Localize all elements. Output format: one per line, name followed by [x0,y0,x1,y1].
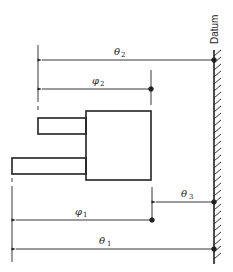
part-body [86,111,151,180]
label-theta3: θ3 [181,188,194,201]
datum-hatch-mark [214,64,221,70]
datum-hatch-mark [214,141,221,147]
label-theta2: θ2 [114,46,126,59]
datum-hatch-mark [214,134,221,140]
datum-hatch-mark [214,50,221,56]
part-lower-shaft [12,158,86,174]
datum-hatch-mark [214,148,221,154]
datum-hatch-mark [214,155,221,161]
datum-hatch-mark [214,85,221,91]
datum-hatch-mark [214,120,221,126]
datum-hatch-mark [214,99,221,105]
part [12,111,151,180]
dim-phi2 [42,87,153,92]
dimension-lines [16,58,216,252]
datum-hatch-mark [214,78,221,84]
label-theta1: θ1 [99,235,112,248]
datum-hatch-mark [214,92,221,98]
datum-hatch-mark [214,232,221,238]
dim-theta1 [16,247,216,252]
datum-hatch-mark [214,162,221,168]
datum-hatch-mark [214,218,221,224]
dim-theta3 [156,200,216,205]
label-phi2: φ2 [92,75,104,88]
diagram: Datum [0,0,233,272]
datum-hatch-mark [214,225,221,231]
datum-hatch-mark [214,211,221,217]
datum-hatch-mark [214,113,221,119]
datum-hatch-mark [214,239,221,245]
datum-hatch-mark [214,169,221,175]
datum-hatch-mark [214,106,221,112]
datum-label: Datum [209,15,220,44]
datum-hatch-mark [214,190,221,196]
dim-theta2 [42,58,216,63]
datum-hatch-mark [214,127,221,133]
datum-hatch-mark [214,204,221,210]
datum-hatch-mark [214,253,221,259]
datum-hatch-mark [214,176,221,182]
datum-hatch-mark [214,71,221,77]
datum-hatch-mark [214,183,221,189]
datum-wall [214,50,221,264]
label-phi1: φ1 [75,206,87,219]
part-upper-shaft [38,118,86,134]
extension-lines [12,45,152,262]
